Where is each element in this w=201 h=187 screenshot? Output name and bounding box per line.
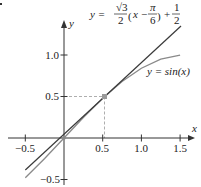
tick-x-15: 1.5: [173, 142, 187, 154]
svg-text:π: π: [150, 1, 156, 13]
svg-text:): ): [157, 10, 161, 23]
tick-x-10: 1.0: [134, 142, 148, 154]
tick-x-neg05: −0.5: [15, 142, 35, 154]
origin-point: [62, 136, 66, 140]
svg-text:+: +: [164, 8, 170, 20]
x-axis-arrow-icon: [188, 135, 195, 141]
svg-text:2: 2: [174, 14, 180, 26]
svg-text:√3: √3: [116, 1, 128, 13]
marker-dot: [0, 3, 2, 5]
sin-label: y = sin(x): [146, 65, 190, 78]
svg-text:1: 1: [174, 1, 180, 13]
x-axis-label: x: [191, 122, 197, 134]
svg-text:6: 6: [150, 14, 156, 26]
svg-text:x −: x −: [132, 8, 148, 20]
tangent-point: [102, 94, 107, 99]
svg-text:2: 2: [118, 14, 124, 26]
chart: −0.5 0.5 1.0 1.5 1.0 0.5 −0.5 x y y = si…: [0, 0, 201, 187]
tangent-equation: y = √3 2 ( x − π 6 ) + 1 2: [89, 1, 180, 26]
tick-y-10: 1.0: [45, 49, 59, 61]
tick-y-neg05: −0.5: [40, 173, 60, 185]
y-axis-arrow-icon: [61, 20, 67, 28]
y-axis-label: y: [68, 17, 74, 29]
svg-text:y =: y =: [89, 8, 105, 20]
tick-y-05: 0.5: [45, 90, 59, 102]
svg-text:(: (: [128, 10, 132, 23]
tick-x-05: 0.5: [95, 142, 109, 154]
